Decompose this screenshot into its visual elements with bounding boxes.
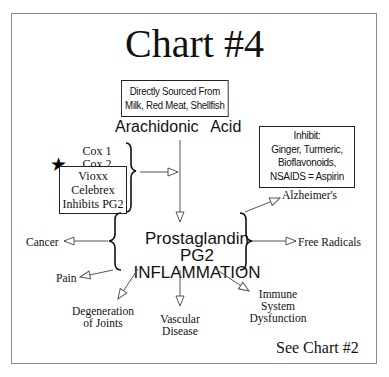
- degeneration-arrow: [118, 269, 138, 299]
- immune-arrow: [214, 268, 249, 291]
- free-radicals-label: Free Radicals: [298, 236, 361, 248]
- vascular-line-2: Disease: [155, 325, 205, 337]
- alzheimers-label: Alzheimer's: [282, 189, 337, 201]
- pain-label: Pain: [56, 272, 76, 284]
- cox-brace: [126, 143, 136, 212]
- degeneration-line-1: Degeneration: [68, 305, 138, 317]
- immune-label: Immune System Dysfunction: [245, 288, 311, 324]
- see-chart-note: See Chart #2: [276, 339, 359, 357]
- vascular-line-1: Vascular: [155, 313, 205, 325]
- degeneration-line-2: of Joints: [68, 317, 138, 329]
- center-left-brace: [109, 213, 121, 270]
- immune-line-3: Dysfunction: [245, 312, 311, 324]
- immune-line-1: Immune: [245, 288, 311, 300]
- degeneration-label: Degeneration of Joints: [68, 305, 138, 329]
- cancer-label: Cancer: [26, 236, 59, 248]
- immune-line-2: System: [245, 300, 311, 312]
- vascular-label: Vascular Disease: [155, 313, 205, 337]
- pain-arrow: [80, 270, 113, 277]
- center-right-brace: [240, 213, 252, 270]
- alzheimers-arrow: [245, 198, 280, 212]
